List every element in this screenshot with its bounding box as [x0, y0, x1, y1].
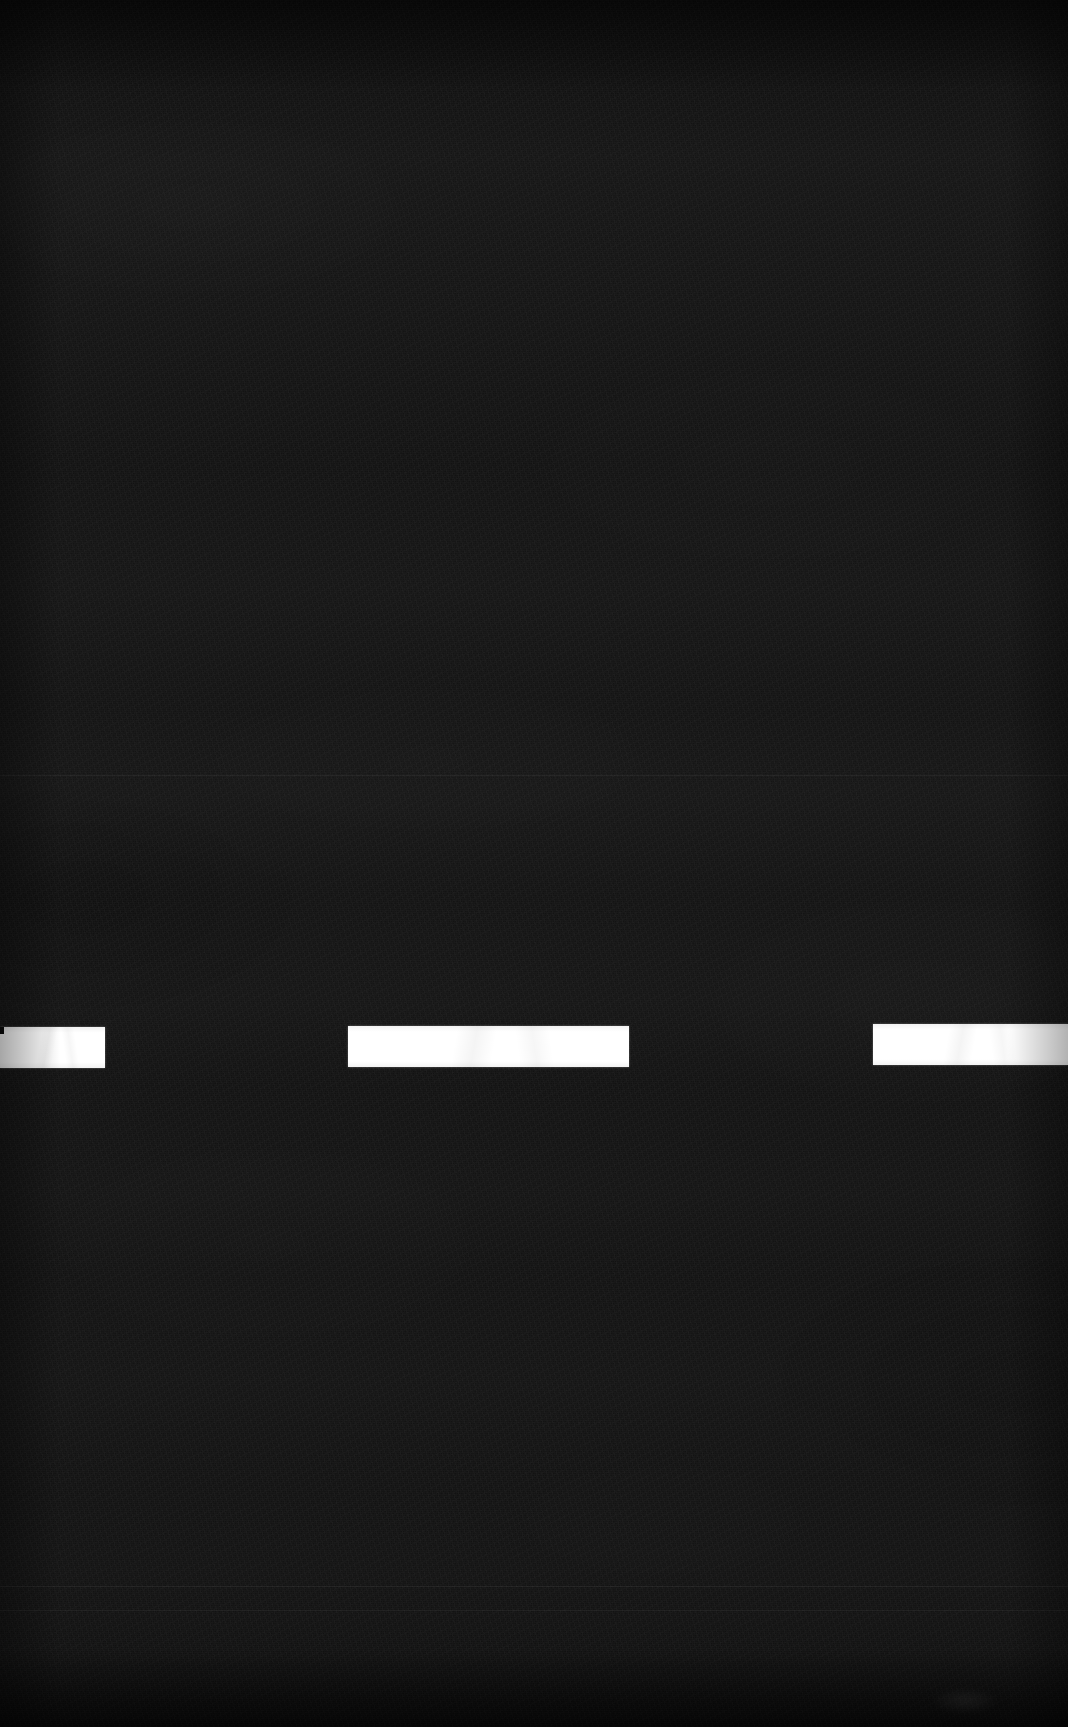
road-scene: [0, 0, 1068, 1727]
lane-dash-right: [873, 1024, 1068, 1065]
lane-dash-center: [348, 1026, 629, 1067]
asphalt-surface: [0, 0, 1068, 1727]
paint-chip-nick: [0, 1027, 4, 1034]
lane-dash-left: [0, 1027, 105, 1068]
